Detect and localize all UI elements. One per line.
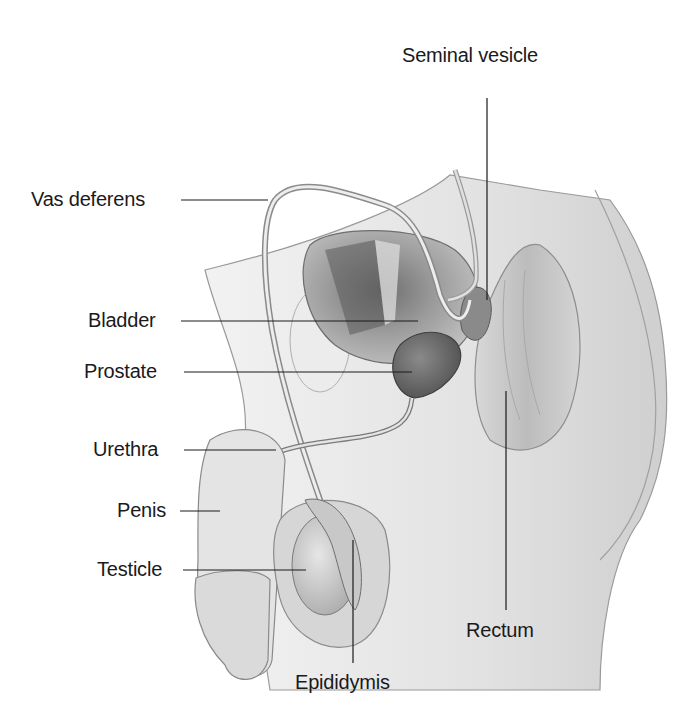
label-prostate: Prostate bbox=[84, 361, 157, 381]
label-urethra: Urethra bbox=[93, 439, 158, 459]
label-vas-deferens: Vas deferens bbox=[31, 189, 145, 209]
label-penis: Penis bbox=[117, 500, 166, 520]
label-bladder: Bladder bbox=[88, 310, 156, 330]
anatomy-illustration bbox=[0, 0, 684, 703]
label-seminal-vesicle: Seminal vesicle bbox=[402, 45, 538, 65]
label-testicle: Testicle bbox=[97, 559, 162, 579]
anatomy-diagram: Seminal vesicle Vas deferens Bladder Pro… bbox=[0, 0, 684, 703]
label-rectum: Rectum bbox=[466, 620, 534, 640]
penis-organ bbox=[195, 430, 285, 680]
label-epididymis: Epididymis bbox=[295, 672, 390, 692]
glans bbox=[195, 571, 270, 680]
